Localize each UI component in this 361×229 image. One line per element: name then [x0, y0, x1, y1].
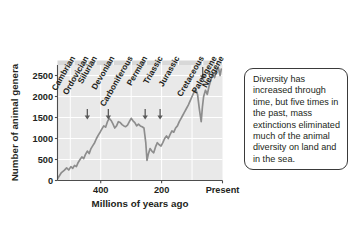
- x-tick-label: 400: [93, 185, 108, 195]
- caption-text: Diversity has increased through time, bu…: [253, 74, 340, 165]
- y-tick-label: 1500: [33, 113, 53, 123]
- y-tick-label: 2500: [33, 71, 53, 81]
- caption-callout: Diversity has increased through time, bu…: [244, 68, 348, 170]
- x-axis-title: Millions of years ago: [92, 198, 189, 209]
- x-tick-label: 200: [154, 185, 169, 195]
- y-tick-label: 0: [48, 176, 53, 186]
- y-tick-label: 1000: [33, 134, 53, 144]
- x-tick-label: Present: [206, 185, 240, 195]
- y-tick-label: 500: [38, 155, 53, 165]
- y-axis-title: Number of animal genera: [9, 63, 20, 181]
- y-tick-label: 2000: [33, 92, 53, 102]
- diversity-over-time-figure: 05001000150020002500 400200Present Cambr…: [0, 0, 361, 229]
